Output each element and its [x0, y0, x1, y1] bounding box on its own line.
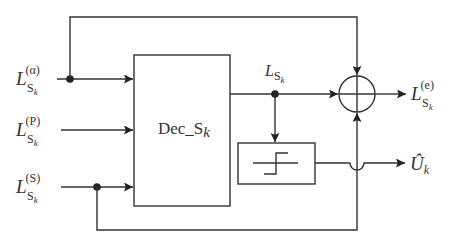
internal-signal-label: LSk — [264, 62, 286, 85]
block-diagram: Dec_Sk LSk L(α) Sk L(P) Sk L(S) Sk — [0, 0, 461, 242]
alpha-feedthrough-line — [70, 17, 357, 79]
decoder-label: Dec_Sk — [158, 119, 210, 140]
svg-text:Sk: Sk — [27, 189, 39, 205]
sum-junction — [339, 76, 375, 112]
svg-text:Sk: Sk — [422, 96, 434, 112]
step-function-icon — [253, 153, 298, 174]
output-label-decision: Ûk — [410, 153, 430, 177]
s-feedthrough-line — [97, 113, 357, 230]
decision-output-line — [315, 163, 405, 170]
svg-text:Sk: Sk — [27, 81, 39, 97]
svg-text:Sk: Sk — [27, 132, 39, 148]
